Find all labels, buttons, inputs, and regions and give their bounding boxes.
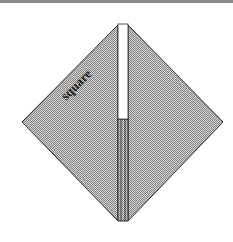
origami-diagram: square: [0, 0, 233, 242]
left-flap: [22, 25, 118, 221]
right-flap: [128, 25, 223, 221]
center-slit: [118, 24, 128, 119]
center-strip: [118, 119, 128, 221]
